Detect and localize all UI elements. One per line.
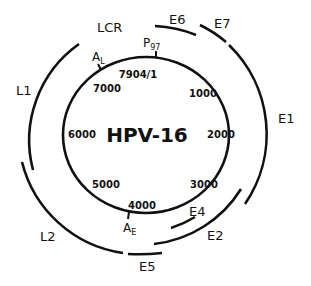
l1-label: L1 [16,83,32,98]
l1-arc [29,44,79,170]
e1-arc [229,45,267,204]
position-label-7904: 7904/1 [119,69,157,80]
position-label-6000: 6000 [68,129,96,140]
position-label-5000: 5000 [92,179,120,190]
e1-label: E1 [278,111,295,126]
e6-label: E6 [169,12,186,27]
position-label-7000: 7000 [93,83,121,94]
genome-title: HPV-16 [106,123,188,147]
ae-label: AE [123,221,136,237]
lcr-label: LCR [97,20,122,35]
e5-arc [128,253,162,254]
l2-label: L2 [40,229,56,244]
ae-polyadenylation-tick [128,212,129,219]
e7-label: E7 [214,16,231,31]
e6-arc [155,26,196,35]
e5-label: E5 [139,259,156,274]
position-label-1000: 1000 [189,88,217,99]
p97-label: P97 [143,36,160,52]
hpv16-genome-map: HPV-16 7904/1 1000 2000 3000 4000 5000 6… [0,0,311,286]
genome-map-svg: HPV-16 7904/1 1000 2000 3000 4000 5000 6… [0,0,311,286]
position-label-2000: 2000 [207,129,235,140]
al-label: AL [92,50,105,66]
l2-arc [22,162,123,253]
e2-label: E2 [207,228,224,243]
position-label-4000: 4000 [128,200,156,211]
position-label-3000: 3000 [190,179,218,190]
e4-label: E4 [189,204,206,219]
